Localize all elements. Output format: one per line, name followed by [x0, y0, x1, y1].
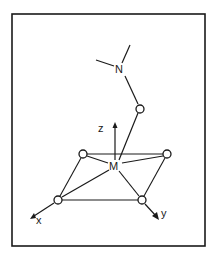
oxygen-atom-bottom-right: [138, 196, 146, 204]
plane-edge-left: [60, 158, 81, 196]
m-o-bond-bl: [62, 170, 109, 197]
o-m-apical-bond: [119, 113, 138, 160]
y-axis-label: y: [161, 207, 167, 219]
oxygen-atom-top-right: [163, 150, 171, 158]
m-o-bond-br: [119, 171, 139, 196]
x-axis-label: x: [36, 214, 42, 226]
oxygen-atom-bottom-left: [54, 196, 62, 204]
n-methyl-bond-left: [96, 60, 114, 66]
n-methyl-bond-upper: [122, 45, 130, 63]
n-o-bond: [125, 76, 138, 104]
apical-oxygen-atom: [136, 105, 144, 113]
m-o-bond-tr: [122, 156, 163, 163]
plane-edge-right: [144, 158, 165, 196]
z-axis-label: z: [98, 122, 104, 134]
oxygen-atom-top-left: [79, 150, 87, 158]
metal-label: M: [109, 160, 118, 172]
coordination-diagram: N z M x y: [0, 0, 214, 256]
z-axis-arrow-icon: [113, 122, 118, 128]
m-o-bond-tl: [87, 156, 108, 163]
nitrogen-label: N: [115, 63, 123, 75]
